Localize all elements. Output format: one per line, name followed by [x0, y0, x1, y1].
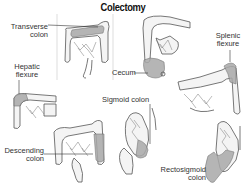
label-rectosigmoid-colon: Rectosigmoid colon: [150, 166, 206, 182]
label-splenic-flexure: Splenic flexure: [208, 32, 246, 48]
panel-cecum: [134, 16, 190, 78]
label-descending-colon: Descending colon: [0, 147, 44, 163]
panel-sigmoid-colon: [120, 104, 157, 174]
label-cecum: Cecum: [112, 69, 136, 77]
panel-transverse-colon: [48, 14, 113, 80]
label-transverse-colon: Transverse colon: [2, 23, 48, 39]
panel-hepatic-flexure: [14, 80, 56, 129]
panel-splenic-flexure: [178, 50, 240, 114]
label-sigmoid-colon: Sigmoid colon: [102, 96, 149, 104]
panel-descending-colon: [44, 120, 104, 182]
panel-rectosigmoid-colon: [205, 121, 240, 182]
label-hepatic-flexure: Hepatic flexure: [10, 63, 44, 79]
